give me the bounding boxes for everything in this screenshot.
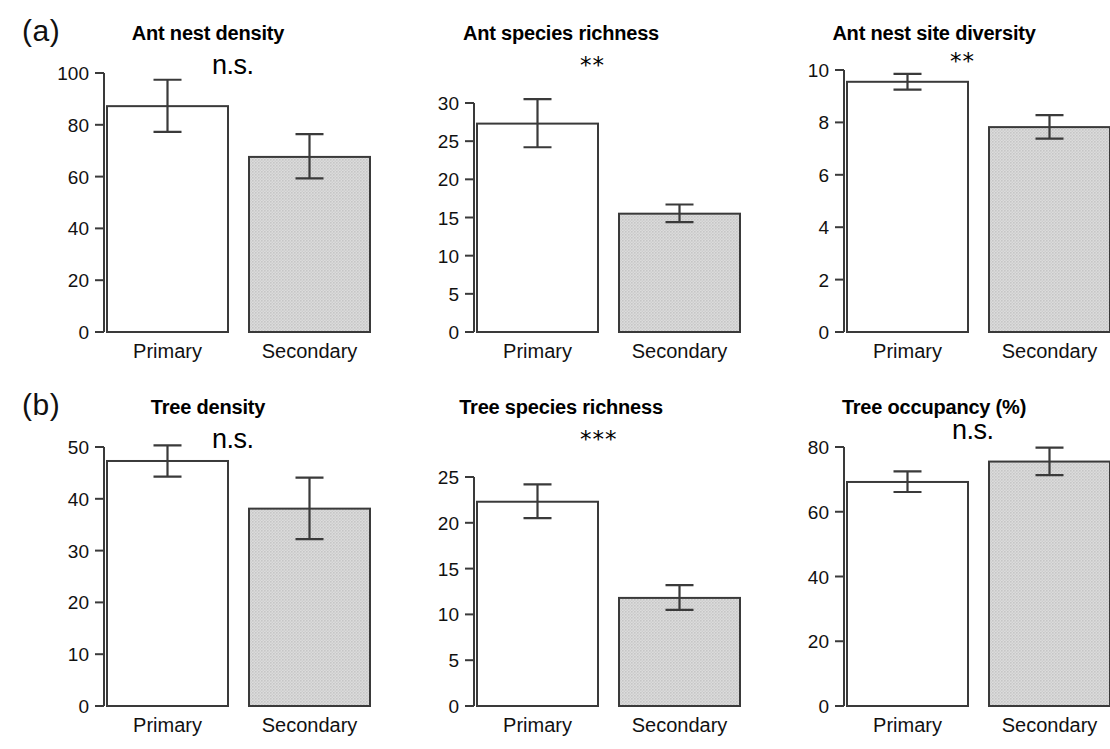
y-tick-label: 10 — [68, 644, 89, 665]
plot-area: 0246810PrimarySecondary — [740, 0, 1110, 375]
y-tick-label: 20 — [808, 631, 829, 652]
y-tick-label: 10 — [438, 246, 459, 267]
plot-area: 020406080PrimarySecondary — [740, 374, 1110, 749]
y-tick-label: 20 — [68, 270, 89, 291]
y-tick-label: 10 — [438, 604, 459, 625]
y-tick-label: 25 — [438, 467, 459, 488]
y-tick-label: 100 — [57, 63, 89, 84]
chart-svg: 0246810PrimarySecondary — [740, 0, 1110, 375]
y-tick-label: 8 — [818, 112, 829, 133]
figure-row-a: (a) Ant nest density 020406080100Primary… — [0, 0, 1110, 375]
plot-area: 01020304050PrimarySecondary — [0, 374, 370, 749]
y-tick-label: 10 — [808, 60, 829, 81]
chart-svg: 01020304050PrimarySecondary — [0, 374, 370, 749]
x-category-label: Secondary — [1002, 340, 1098, 362]
y-tick-label: 40 — [68, 218, 89, 239]
y-tick-label: 20 — [438, 513, 459, 534]
y-tick-label: 80 — [68, 115, 89, 136]
y-tick-label: 60 — [808, 502, 829, 523]
y-tick-label: 2 — [818, 270, 829, 291]
bar-secondary — [249, 157, 370, 332]
x-category-label: Secondary — [632, 714, 728, 736]
y-tick-label: 5 — [448, 650, 459, 671]
panel-tree-occupancy: Tree occupancy (%) 020406080PrimarySecon… — [740, 374, 1110, 749]
significance-annotation: n.s. — [952, 417, 994, 444]
bar-primary — [847, 82, 968, 332]
significance-annotation: ** — [580, 54, 605, 77]
panel-ant-nest-site-diversity: Ant nest site diversity 0246810PrimarySe… — [740, 0, 1110, 375]
y-tick-label: 0 — [818, 322, 829, 343]
y-tick-label: 40 — [68, 489, 89, 510]
chart-svg: 0510152025PrimarySecondary — [370, 374, 740, 749]
plot-area: 051015202530PrimarySecondary — [370, 0, 740, 375]
bar-primary — [847, 482, 968, 706]
bar-primary — [477, 502, 598, 706]
y-tick-label: 80 — [808, 437, 829, 458]
y-tick-label: 30 — [68, 541, 89, 562]
y-tick-label: 25 — [438, 131, 459, 152]
y-tick-label: 0 — [818, 696, 829, 717]
bar-secondary — [619, 598, 740, 706]
y-tick-label: 15 — [438, 208, 459, 229]
panel-tree-species-richness: Tree species richness 0510152025PrimaryS… — [370, 374, 740, 749]
bar-primary — [107, 461, 228, 706]
panel-ant-species-richness: Ant species richness 051015202530Primary… — [370, 0, 740, 375]
x-category-label: Primary — [503, 340, 572, 362]
y-tick-label: 15 — [438, 559, 459, 580]
y-tick-label: 50 — [68, 437, 89, 458]
chart-svg: 020406080PrimarySecondary — [740, 374, 1110, 749]
x-category-label: Secondary — [262, 714, 358, 736]
y-tick-label: 0 — [78, 322, 89, 343]
y-tick-label: 20 — [68, 592, 89, 613]
y-tick-label: 6 — [818, 165, 829, 186]
bar-secondary — [989, 127, 1110, 332]
figure-root: (a) Ant nest density 020406080100Primary… — [0, 0, 1110, 749]
y-tick-label: 60 — [68, 167, 89, 188]
x-category-label: Secondary — [1002, 714, 1098, 736]
y-tick-label: 0 — [78, 696, 89, 717]
bar-primary — [477, 124, 598, 332]
figure-row-b: (b) Tree density 01020304050PrimarySecon… — [0, 374, 1110, 749]
plot-area: 0510152025PrimarySecondary — [370, 374, 740, 749]
panel-tree-density: Tree density 01020304050PrimarySecondary… — [0, 374, 370, 749]
panel-ant-nest-density: Ant nest density 020406080100PrimarySeco… — [0, 0, 370, 375]
chart-svg: 020406080100PrimarySecondary — [0, 0, 370, 375]
y-tick-label: 40 — [808, 567, 829, 588]
plot-area: 020406080100PrimarySecondary — [0, 0, 370, 375]
y-tick-label: 5 — [448, 284, 459, 305]
significance-annotation: *** — [580, 428, 618, 451]
x-category-label: Primary — [873, 714, 942, 736]
significance-annotation: n.s. — [212, 52, 254, 79]
y-tick-label: 4 — [818, 217, 829, 238]
significance-annotation: n.s. — [212, 426, 254, 453]
significance-annotation: ** — [950, 50, 975, 73]
x-category-label: Secondary — [262, 340, 358, 362]
x-category-label: Primary — [503, 714, 572, 736]
y-tick-label: 20 — [438, 169, 459, 190]
bar-secondary — [619, 214, 740, 332]
y-tick-label: 30 — [438, 93, 459, 114]
y-tick-label: 0 — [448, 322, 459, 343]
chart-svg: 051015202530PrimarySecondary — [370, 0, 740, 375]
bar-secondary — [989, 462, 1110, 706]
x-category-label: Primary — [133, 340, 202, 362]
x-category-label: Primary — [873, 340, 942, 362]
x-category-label: Primary — [133, 714, 202, 736]
y-tick-label: 0 — [448, 696, 459, 717]
x-category-label: Secondary — [632, 340, 728, 362]
bar-primary — [107, 106, 228, 332]
